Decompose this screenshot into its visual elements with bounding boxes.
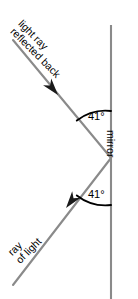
mirror-label: mirror	[105, 130, 116, 157]
reflection-diagram: light ray reflected back ray of light mi…	[0, 0, 138, 299]
incident-ray-line	[13, 158, 111, 285]
reflection-angle-label: 41°	[88, 110, 105, 122]
incidence-angle-label: 41°	[88, 188, 105, 200]
